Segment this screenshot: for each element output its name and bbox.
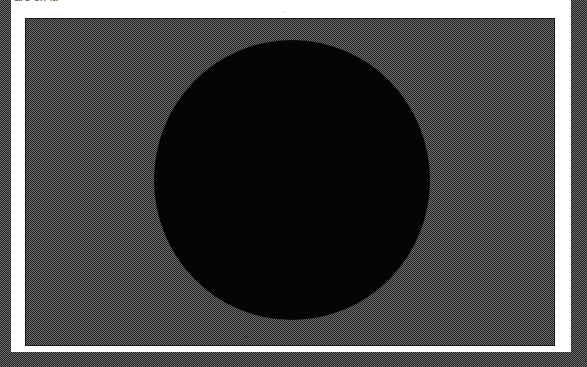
photograph <box>25 18 555 346</box>
scanned-page: are on it. <box>0 0 587 367</box>
caption-text: are on it. <box>14 0 59 4</box>
scan-speck-lower <box>245 336 247 338</box>
caption-strip: are on it. <box>11 0 571 17</box>
dark-disc-subject <box>154 40 430 320</box>
scan-speck-top <box>283 11 285 13</box>
